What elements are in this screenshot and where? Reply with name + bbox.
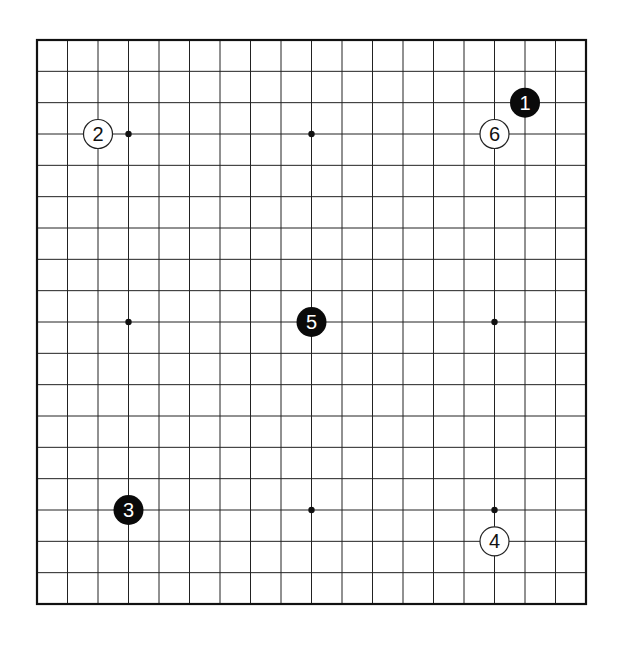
- star-point: [308, 131, 314, 137]
- white-stone-4[interactable]: 4: [480, 527, 509, 556]
- black-stone-3[interactable]: 3: [114, 495, 144, 525]
- white-stone-6[interactable]: 6: [480, 120, 509, 149]
- move-number: 1: [519, 92, 530, 114]
- star-point: [491, 319, 497, 325]
- move-number: 4: [489, 530, 500, 552]
- move-number: 2: [92, 123, 103, 145]
- white-stone-2[interactable]: 2: [84, 120, 113, 149]
- black-stone-5[interactable]: 5: [297, 307, 327, 337]
- star-point: [125, 319, 131, 325]
- move-number: 5: [306, 311, 317, 333]
- go-board-diagram: 123456: [0, 0, 621, 650]
- go-board[interactable]: 123456: [0, 0, 621, 650]
- star-point: [308, 507, 314, 513]
- black-stone-1[interactable]: 1: [510, 88, 540, 118]
- move-number: 3: [123, 499, 134, 521]
- star-point: [491, 507, 497, 513]
- star-point: [125, 131, 131, 137]
- move-number: 6: [489, 123, 500, 145]
